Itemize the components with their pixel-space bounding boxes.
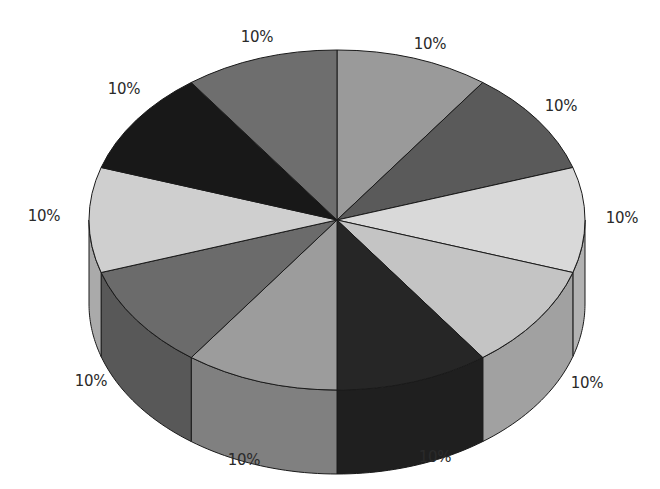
slice-label-7: 10% xyxy=(75,372,107,390)
slice-label-9: 10% xyxy=(108,80,140,98)
slice-label-1: 10% xyxy=(414,35,446,53)
slice-label-3: 10% xyxy=(606,209,638,227)
pie-top-slices xyxy=(89,50,585,390)
pie-chart-3d xyxy=(0,0,660,489)
slice-label-5: 10% xyxy=(419,448,451,466)
slice-label-8: 10% xyxy=(28,207,60,225)
slice-label-6: 10% xyxy=(228,451,260,469)
slice-label-2: 10% xyxy=(545,97,577,115)
slice-label-4: 10% xyxy=(571,374,603,392)
slice-label-10: 10% xyxy=(241,28,273,46)
